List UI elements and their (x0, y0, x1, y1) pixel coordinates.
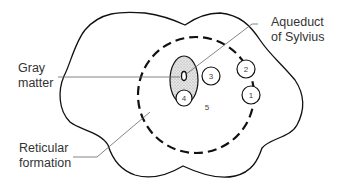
aqueduct-oval (182, 72, 187, 81)
aqueduct-label: Aqueduct of Sylvius (271, 15, 325, 45)
dashed-boundary-circle (138, 37, 254, 153)
svg-text:4: 4 (182, 94, 187, 103)
gray-matter-label: Gray matter (18, 61, 53, 91)
aqueduct-label-line2: of Sylvius (271, 30, 325, 45)
gray-matter-label-line2: matter (18, 76, 53, 91)
nucleus-4: 4 (176, 90, 192, 106)
reticular-formation-label: Reticular formation (19, 141, 71, 171)
svg-text:2: 2 (244, 65, 249, 74)
gray-matter-label-line1: Gray (18, 61, 53, 76)
nucleus-2: 2 (237, 60, 255, 78)
region-5-label: 5 (205, 103, 210, 112)
svg-text:1: 1 (249, 91, 254, 100)
nucleus-3: 3 (202, 67, 220, 85)
reticular-label-line2: formation (19, 156, 71, 171)
svg-text:3: 3 (209, 72, 214, 81)
reticular-leader (73, 112, 150, 157)
nucleus-1: 1 (242, 86, 260, 104)
reticular-label-line1: Reticular (19, 141, 71, 156)
aqueduct-label-line1: Aqueduct (271, 15, 325, 30)
